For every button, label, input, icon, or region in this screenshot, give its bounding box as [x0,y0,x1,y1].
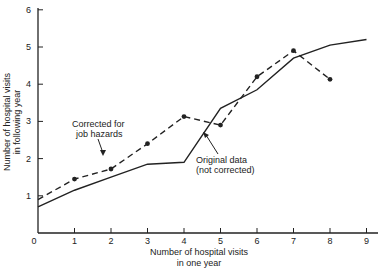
x-tick-label: 9 [364,236,369,246]
data-point-marker [291,48,296,53]
x-tick-label: 2 [108,236,113,246]
annotation-original-line2: (not corrected) [196,165,255,175]
data-point-marker [328,77,333,82]
y-tick-label: 1 [26,191,31,201]
y-tick-label: 6 [26,5,31,15]
data-point-marker [255,74,260,79]
x-tick-label: 1 [72,236,77,246]
x-tick-label: 3 [145,236,150,246]
x-tick-label: 5 [218,236,223,246]
y-tick-label: 2 [26,154,31,164]
data-point-marker [218,123,223,128]
y-tick-label: 4 [26,79,31,89]
x-axis-title-line2: in one year [177,258,222,268]
annotation-corrected-line1: Corrected for [72,119,125,129]
x-tick-label: 4 [181,236,186,246]
y-axis-ticks: 123456 [26,5,43,201]
x-tick-label: 8 [327,236,332,246]
data-point-marker [109,167,114,172]
x-tick-label: 6 [254,236,259,246]
x-tick-label: 0 [31,236,36,246]
data-point-marker [72,177,77,182]
line-chart: 0123456789 123456 Number of hospital vis… [0,0,379,270]
arrowhead-icon [203,132,209,138]
data-point-marker [182,114,187,119]
y-axis-title-line1: Number of hospital visits [2,72,12,171]
data-point-marker [145,141,150,146]
y-tick-label: 5 [26,42,31,52]
annotation-corrected-line2: job hazards [75,129,123,139]
annotation-original-line1: Original data [196,155,247,165]
x-axis-title-line1: Number of hospital visits [150,247,249,257]
y-axis-title-line2: in following year [12,90,22,155]
x-axis-ticks: 0123456789 [31,228,369,246]
y-tick-label: 3 [26,116,31,126]
annotation-original-arrow [206,135,218,154]
arrowhead-icon [100,150,106,156]
x-tick-label: 7 [291,236,296,246]
